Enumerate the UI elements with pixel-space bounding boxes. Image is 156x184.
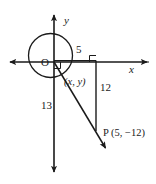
figure-canvas	[0, 0, 156, 184]
x-axis-label: x	[129, 64, 134, 75]
origin-label: O	[41, 57, 49, 68]
vertical-leg-length-label: 12	[100, 82, 111, 93]
terminal-ray	[54, 62, 106, 148]
terminal-point-label: P (5, −12)	[103, 128, 145, 139]
unit-circle	[29, 34, 73, 78]
point-on-circle-label: (x, y)	[64, 77, 86, 88]
geometry-figure: y x O 5 (x, y) 12 13 P (5, −12)	[0, 0, 156, 184]
y-axis-label: y	[64, 15, 69, 26]
radius-length-label: 13	[41, 100, 52, 111]
horizontal-leg-length-label: 5	[76, 44, 82, 55]
